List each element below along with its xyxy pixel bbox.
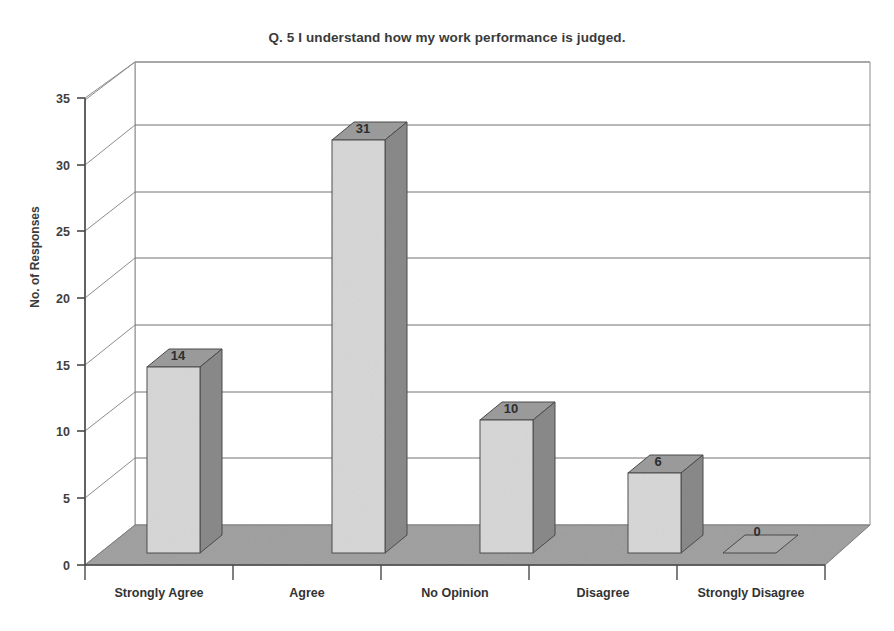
bar-no-opinion[interactable]: 10 <box>480 401 555 553</box>
chart-plot-area: 0 5 10 15 20 25 30 35 0 6 <box>0 0 894 631</box>
bar-2-side <box>385 122 407 553</box>
bar-4-value-label: 6 <box>654 454 661 469</box>
y-tick-25: 25 <box>56 225 70 239</box>
bar-3-front-texture <box>480 420 533 553</box>
y-tick-35: 35 <box>56 92 70 106</box>
left-wall <box>85 62 135 565</box>
chart-container: Q. 5 I understand how my work performanc… <box>0 0 894 631</box>
bar-4-front-texture <box>628 473 681 553</box>
bar-5-value-label: 0 <box>753 524 760 539</box>
bar-1-value-label: 14 <box>171 348 186 363</box>
y-axis-ticks <box>77 98 85 565</box>
x-label-strongly-disagree: Strongly Disagree <box>698 586 805 600</box>
x-label-no-opinion: No Opinion <box>421 586 488 600</box>
x-axis-ticks <box>85 565 825 580</box>
x-axis-tick-labels: Strongly Agree Agree No Opinion Disagree… <box>114 586 804 600</box>
bar-agree[interactable]: 31 <box>332 121 407 553</box>
x-label-agree: Agree <box>289 586 324 600</box>
x-label-strongly-agree: Strongly Agree <box>114 586 203 600</box>
bar-1-side <box>200 349 222 553</box>
y-tick-10: 10 <box>56 425 70 439</box>
y-axis-tick-labels: 0 5 10 15 20 25 30 35 <box>56 92 70 573</box>
bar-3-value-label: 10 <box>504 401 518 416</box>
y-tick-5: 5 <box>63 492 70 506</box>
y-tick-30: 30 <box>56 159 70 173</box>
bar-4-side <box>681 455 703 553</box>
bar-3-side <box>533 402 555 553</box>
bar-strongly-agree[interactable]: 14 <box>147 348 222 553</box>
y-tick-0: 0 <box>63 559 70 573</box>
bar-2-value-label: 31 <box>356 121 370 136</box>
bar-1-front-texture <box>147 367 200 553</box>
bar-2-front-texture <box>332 140 385 553</box>
y-tick-15: 15 <box>56 359 70 373</box>
x-label-disagree: Disagree <box>577 586 630 600</box>
bar-disagree[interactable]: 6 <box>628 454 703 553</box>
y-tick-20: 20 <box>56 292 70 306</box>
